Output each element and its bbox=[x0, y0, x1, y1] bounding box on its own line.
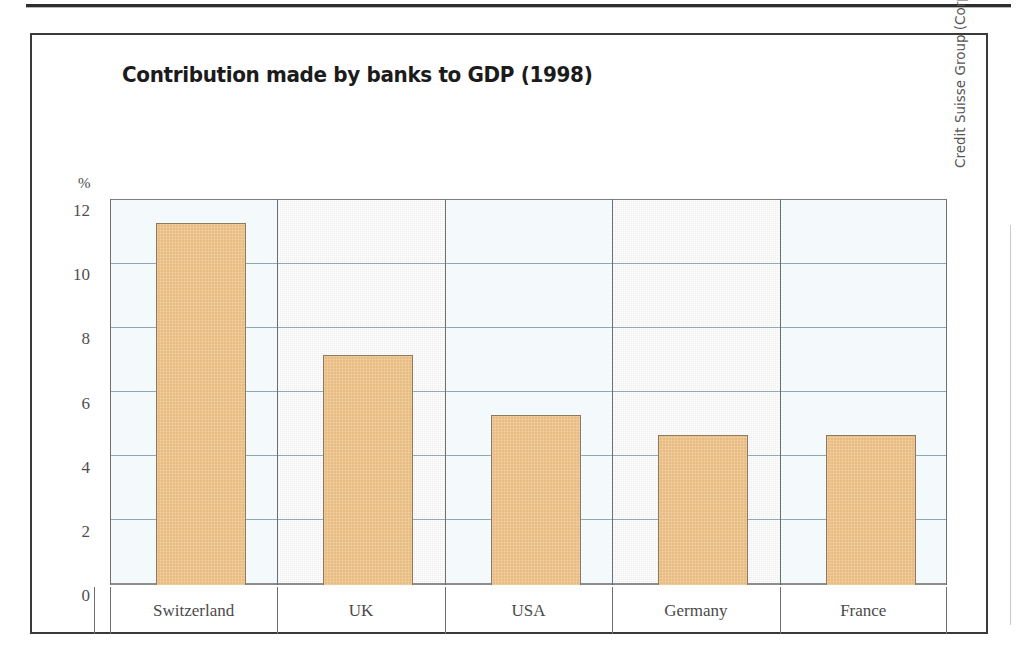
bar-germany[interactable] bbox=[658, 435, 748, 585]
ytick-label-8: 8 bbox=[32, 329, 90, 349]
page-top-rule bbox=[26, 4, 1011, 7]
ytick-label-12: 12 bbox=[32, 201, 90, 221]
credit-separator-rail bbox=[1010, 225, 1011, 625]
y-axis-unit-label: % bbox=[78, 175, 91, 192]
bar-switzerland[interactable] bbox=[156, 223, 246, 585]
x-axis-label-row: Switzerland UK USA Germany France bbox=[110, 587, 947, 634]
xtick-label-germany: Germany bbox=[612, 587, 779, 634]
ytick-label-10: 10 bbox=[32, 265, 90, 285]
column-divider-2 bbox=[445, 199, 446, 585]
xtick-label-uk: UK bbox=[277, 587, 444, 634]
bar-usa[interactable] bbox=[491, 415, 581, 585]
bar-france[interactable] bbox=[826, 435, 916, 585]
column-divider-4 bbox=[780, 199, 781, 585]
ytick-label-4: 4 bbox=[32, 458, 90, 478]
bar-uk[interactable] bbox=[323, 355, 413, 585]
column-divider-1 bbox=[277, 199, 278, 585]
source-credit-label: Credit Suisse Group (Corporate History a… bbox=[952, 0, 968, 168]
ytick-label-0: 0 bbox=[32, 586, 90, 606]
plot-area bbox=[110, 199, 947, 585]
page-title: Contribution made by banks to GDP (1998) bbox=[122, 62, 592, 87]
ytick-label-2: 2 bbox=[32, 522, 90, 542]
xtick-label-usa: USA bbox=[445, 587, 612, 634]
xaxis-left-edge bbox=[94, 587, 95, 634]
ytick-label-6: 6 bbox=[32, 394, 90, 414]
figure-frame: Contribution made by banks to GDP (1998)… bbox=[30, 33, 988, 634]
plot-left-edge bbox=[110, 199, 111, 585]
gridline-12 bbox=[110, 199, 947, 200]
plot-right-edge bbox=[946, 199, 947, 585]
xtick-label-switzerland: Switzerland bbox=[110, 587, 277, 634]
column-divider-3 bbox=[612, 199, 613, 585]
xtick-label-france: France bbox=[780, 587, 947, 634]
